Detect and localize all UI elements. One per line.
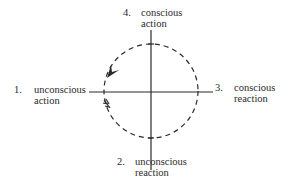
quadrant-2-label-line1: unconscious [135,156,187,167]
quadrant-4-label-line1: conscious [141,7,182,18]
quadrant-2-number: 2. [117,156,125,167]
quadrant-3-label-line1: conscious [234,82,275,93]
quadrant-2-label-line2: reaction [135,167,169,178]
quadrant-4-number: 4. [123,7,131,18]
quadrant-1-number: 1. [14,84,22,95]
quadrant-1-label-line2: action [34,95,60,106]
quadrant-4-label-line2: action [141,18,167,29]
quadrant-3-label-line2: reaction [234,93,268,104]
quadrant-3-number: 3. [215,82,223,93]
direction-arrow-icon [107,65,119,78]
quadrant-1-label-line1: unconscious [34,84,86,95]
arrow-tail-icon [103,99,110,108]
